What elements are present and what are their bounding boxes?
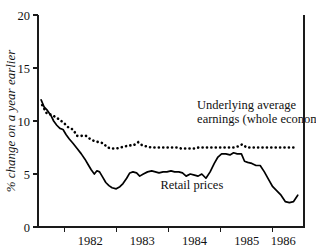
y-tick-label-0: 0 xyxy=(24,221,30,235)
economic-indicators-line-chart: 05101520 19821983198419851986 % change o… xyxy=(0,0,316,252)
x-axis-ticks xyxy=(64,227,273,232)
y-axis-title: % change on a year earlier xyxy=(3,49,18,193)
y-tick-label-10: 10 xyxy=(18,115,31,129)
x-tick-label-1982: 1982 xyxy=(78,234,103,248)
x-tick-label-1985: 1985 xyxy=(234,234,259,248)
retail-prices-label-line-1: Retail prices xyxy=(160,178,223,192)
x-axis-tick-labels: 19821983198419851986 xyxy=(78,234,296,248)
x-tick-label-1986: 1986 xyxy=(271,234,296,248)
earnings-label-line-1: Underlying average xyxy=(197,98,296,112)
y-axis-ticks xyxy=(33,15,38,227)
earnings-label-line-2: earnings (whole economy) xyxy=(197,112,316,126)
y-tick-label-15: 15 xyxy=(18,62,31,76)
y-axis-tick-labels: 05101520 xyxy=(18,9,31,235)
y-tick-label-5: 5 xyxy=(24,168,30,182)
y-axis-title-text: % change on a year earlier xyxy=(3,49,18,193)
chart-annotations: Underlying averageearnings (whole econom… xyxy=(160,98,316,192)
x-tick-label-1983: 1983 xyxy=(130,234,155,248)
x-tick-label-1984: 1984 xyxy=(182,234,208,248)
chart-figure: 05101520 19821983198419851986 % change o… xyxy=(0,0,316,252)
y-tick-label-20: 20 xyxy=(18,9,31,23)
